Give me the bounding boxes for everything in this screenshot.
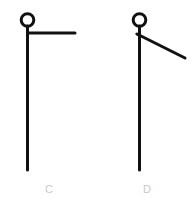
figure-cell-d: D: [98, 0, 196, 206]
figure-d-drawing: [98, 0, 196, 178]
figure-d-label: D: [98, 182, 196, 196]
figure-cell-c: C: [0, 0, 98, 206]
figure-c-head-icon: [21, 14, 34, 27]
figure-d-arm-line: [137, 34, 185, 58]
figure-c-drawing: [0, 0, 98, 178]
figure-panel: C D: [0, 0, 196, 206]
figure-d-head-icon: [133, 14, 146, 27]
